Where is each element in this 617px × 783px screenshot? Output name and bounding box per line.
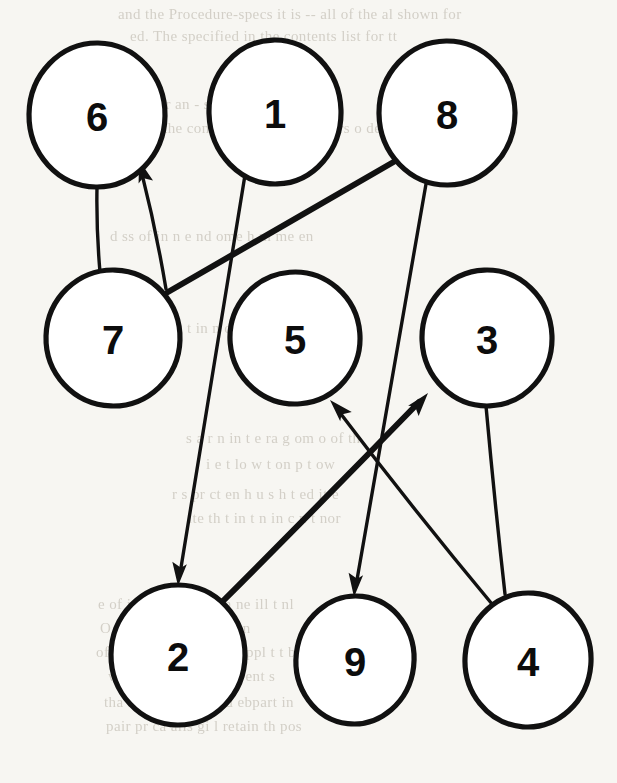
edge-7-to-6[interactable] — [139, 160, 166, 289]
arrowhead-into-node-9 — [349, 573, 364, 597]
edge-2-to-3[interactable] — [220, 393, 428, 604]
node-label-2: 2 — [167, 635, 189, 679]
edge-8-to-9[interactable] — [349, 184, 426, 597]
node-8[interactable]: 8 — [378, 40, 516, 186]
node-label-8: 8 — [436, 93, 458, 137]
node-label-4: 4 — [517, 640, 540, 684]
node-label-7: 7 — [102, 318, 124, 362]
edge-stroke — [97, 187, 100, 272]
diagram-canvas: and the Procedure-specs it is -- all of … — [0, 0, 617, 783]
arrowhead-into-node-5 — [330, 400, 352, 421]
edge-stroke — [142, 172, 166, 289]
node-1[interactable]: 1 — [207, 38, 343, 186]
node-label-6: 6 — [86, 95, 108, 139]
edge-stroke — [356, 184, 426, 585]
edge-6-to-7[interactable] — [97, 187, 100, 272]
node-3[interactable]: 3 — [419, 267, 555, 408]
edge-3-to-4[interactable] — [486, 406, 505, 594]
edge-stroke — [486, 406, 505, 594]
node-label-3: 3 — [476, 318, 498, 362]
node-label-9: 9 — [344, 640, 366, 684]
node-label-1: 1 — [264, 92, 286, 136]
node-7[interactable]: 7 — [44, 268, 182, 408]
edge-4-to-5[interactable] — [330, 400, 492, 604]
node-2[interactable]: 2 — [110, 584, 245, 725]
edge-1-to-2[interactable] — [172, 175, 245, 586]
node-4[interactable]: 4 — [460, 588, 596, 731]
node-6[interactable]: 6 — [28, 42, 166, 188]
edge-stroke — [180, 175, 245, 574]
node-layer: 618753294 — [28, 38, 596, 732]
graph-svg: 618753294 — [0, 0, 617, 783]
node-9[interactable]: 9 — [289, 590, 421, 731]
node-label-5: 5 — [284, 318, 306, 362]
arrowhead-into-node-2 — [172, 562, 187, 586]
edge-stroke — [338, 410, 492, 604]
node-5[interactable]: 5 — [225, 267, 365, 409]
edge-stroke — [220, 402, 419, 604]
